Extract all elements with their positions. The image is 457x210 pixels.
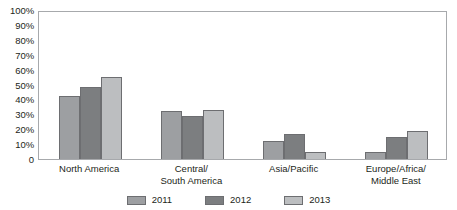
y-axis-tick-label: 70% — [0, 51, 34, 61]
legend-label: 2011 — [152, 195, 172, 205]
category-label-line: South America — [140, 175, 242, 187]
y-axis-tick-label: 40% — [0, 96, 34, 106]
bar[interactable] — [203, 110, 224, 159]
x-axis-category-labels: North AmericaCentral/South AmericaAsia/P… — [38, 163, 447, 191]
legend-label: 2013 — [309, 195, 330, 205]
y-axis-tick-label: 80% — [0, 36, 34, 46]
category-label-line: Europe/Africa/ — [345, 163, 447, 175]
y-axis-tick-label: 100% — [0, 6, 34, 16]
x-axis-category-label: Asia/Pacific — [243, 163, 345, 175]
category-label-line: Middle East — [345, 175, 447, 187]
bar[interactable] — [59, 96, 80, 159]
legend-item[interactable]: 2011 — [127, 195, 172, 205]
x-axis-category-label: Central/South America — [140, 163, 242, 186]
legend-item[interactable]: 2012 — [205, 195, 251, 205]
bar[interactable] — [101, 77, 122, 159]
bar[interactable] — [80, 87, 101, 159]
bar[interactable] — [284, 134, 305, 159]
y-axis: 100%90%80%70%60%50%40%30%20%10%0 — [0, 0, 34, 166]
y-axis-tick-label: 20% — [0, 125, 34, 135]
category-label-line: North America — [38, 163, 140, 175]
plot-area — [38, 11, 447, 160]
category-label-line: Central/ — [140, 163, 242, 175]
legend: 201120122013 — [0, 193, 457, 207]
bar[interactable] — [407, 131, 428, 159]
y-axis-tick-label: 50% — [0, 81, 34, 91]
bar[interactable] — [365, 152, 386, 159]
bar-group — [57, 12, 123, 159]
bar[interactable] — [263, 141, 284, 159]
bar[interactable] — [161, 111, 182, 159]
bar-chart: 100%90%80%70%60%50%40%30%20%10%0 North A… — [0, 0, 457, 210]
bar-group — [364, 12, 430, 159]
legend-item[interactable]: 2013 — [284, 195, 330, 205]
bar-group — [262, 12, 328, 159]
legend-label: 2012 — [230, 195, 251, 205]
y-axis-tick-label: 60% — [0, 66, 34, 76]
y-axis-tick-label: 30% — [0, 111, 34, 121]
bar-group — [159, 12, 225, 159]
bar[interactable] — [182, 116, 203, 159]
legend-swatch — [284, 196, 303, 205]
bar-groups-container — [39, 12, 446, 159]
y-axis-tick-label: 0 — [0, 155, 34, 165]
legend-swatch — [127, 196, 146, 205]
bar[interactable] — [305, 152, 326, 159]
category-label-line: Asia/Pacific — [243, 163, 345, 175]
y-axis-tick-label: 10% — [0, 140, 34, 150]
x-axis-category-label: Europe/Africa/Middle East — [345, 163, 447, 186]
bar[interactable] — [386, 137, 407, 159]
x-axis-category-label: North America — [38, 163, 140, 175]
legend-swatch — [205, 196, 224, 205]
y-axis-tick-label: 90% — [0, 21, 34, 31]
